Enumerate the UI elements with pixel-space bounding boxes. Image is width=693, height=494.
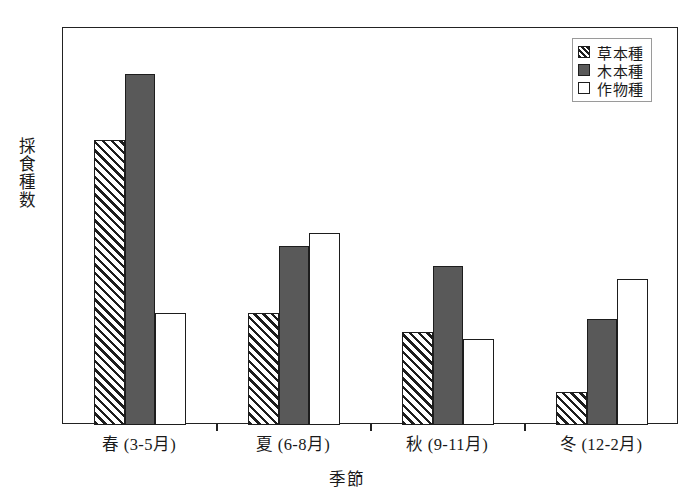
y-axis-title: 採食種数 [8, 137, 34, 209]
bar [587, 319, 618, 425]
x-axis-title: 季節 [0, 466, 693, 490]
legend: 草本種木本種作物種 [572, 38, 652, 102]
x-axis-tick-mark [216, 424, 218, 431]
bar [125, 74, 156, 425]
legend-item: 作物種 [578, 79, 644, 97]
bar [309, 233, 340, 425]
x-axis-category-label: 秋 (9-11月) [406, 431, 488, 455]
x-axis-category-label: 夏 (6-8月) [256, 431, 330, 455]
bar [617, 279, 648, 425]
legend-swatch-icon [578, 64, 590, 76]
bar [402, 332, 433, 425]
x-axis-tick-mark [370, 424, 372, 431]
x-axis-category-label: 冬 (12-2月) [560, 431, 643, 455]
legend-item: 草本種 [578, 43, 644, 61]
bar [556, 392, 587, 425]
y-axis: 0102030405060 [0, 0, 62, 494]
bar [279, 246, 310, 425]
legend-swatch-icon [578, 82, 590, 94]
legend-swatch-icon [578, 46, 590, 58]
bar [463, 339, 494, 425]
x-axis-tick-mark [524, 424, 526, 431]
bar [155, 313, 186, 425]
bar [248, 313, 279, 425]
bar [94, 140, 125, 425]
bar-chart-figure: 採食種数 0102030405060 春 (3-5月)夏 (6-8月)秋 (9-… [0, 0, 693, 494]
bar [433, 266, 464, 425]
x-axis-category-label: 春 (3-5月) [102, 431, 176, 455]
legend-item-label: 作物種 [597, 78, 644, 99]
legend-item: 木本種 [578, 61, 644, 79]
x-axis-category-labels: 春 (3-5月)夏 (6-8月)秋 (9-11月)冬 (12-2月) [62, 431, 678, 465]
